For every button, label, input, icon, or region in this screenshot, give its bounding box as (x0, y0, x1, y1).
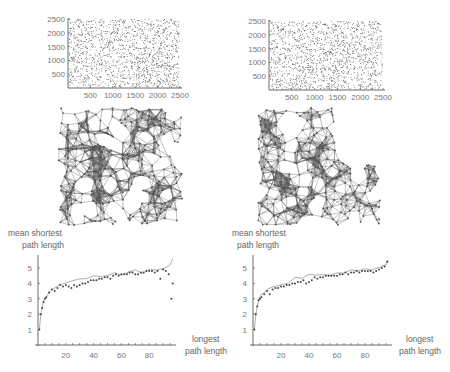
figure-canvas: 50010001500200025005001000150020002500 5… (0, 0, 450, 372)
x-tick-label: 2000 (351, 93, 369, 102)
x-axis-label: path length (399, 346, 441, 356)
y-axis-label: path length (237, 240, 279, 250)
x-tick-label: 2500 (171, 91, 189, 100)
y-tick-label: 1 (243, 326, 248, 335)
x-axis-label: longest (192, 334, 220, 344)
y-tick-label: 2 (243, 310, 248, 319)
y-tick-label: 1500 (248, 45, 266, 54)
x-tick-label: 1500 (329, 93, 347, 102)
x-tick-label: 60 (333, 351, 342, 360)
y-axis-label: mean shortest (8, 228, 62, 238)
y-tick-label: 1000 (248, 58, 266, 67)
y-tick-label: 4 (28, 279, 33, 288)
network-graph-left (58, 107, 183, 226)
y-tick-label: 4 (243, 279, 248, 288)
x-tick-label: 40 (89, 351, 98, 360)
y-tick-label: 500 (253, 72, 267, 81)
path-length-plot-left: mean shortest path length longest path l… (8, 228, 227, 360)
x-tick-label: 1000 (306, 93, 324, 102)
x-tick-label: 2000 (149, 91, 167, 100)
path-length-plot-right: mean shortest path length longest path l… (232, 228, 441, 360)
x-tick-label: 500 (285, 93, 299, 102)
y-tick-label: 2500 (248, 17, 266, 26)
y-axis-label: mean shortest (232, 228, 286, 238)
node-positions-scatter-left: 50010001500200025005001000150020002500 (47, 15, 189, 100)
network-graph-right (257, 107, 380, 226)
y-tick-label: 2500 (47, 15, 65, 24)
x-tick-label: 2500 (374, 93, 392, 102)
y-tick-label: 2000 (248, 31, 266, 40)
node-positions-scatter-right: 50010001500200025005001000150020002500 (248, 17, 392, 102)
x-tick-label: 60 (117, 351, 126, 360)
x-axis-label: longest (406, 334, 434, 344)
y-tick-label: 3 (243, 295, 248, 304)
x-tick-label: 20 (61, 351, 70, 360)
y-tick-label: 1 (28, 326, 33, 335)
x-tick-label: 1500 (126, 91, 144, 100)
x-tick-label: 500 (84, 91, 98, 100)
x-tick-label: 1000 (104, 91, 122, 100)
x-axis-label: path length (185, 346, 227, 356)
x-tick-label: 80 (145, 351, 154, 360)
y-tick-label: 2000 (47, 29, 65, 38)
y-tick-label: 5 (243, 264, 248, 273)
x-tick-label: 80 (361, 351, 370, 360)
y-tick-label: 1500 (47, 43, 65, 52)
y-axis-label: path length (22, 240, 64, 250)
y-tick-label: 3 (28, 295, 33, 304)
y-tick-label: 2 (28, 310, 33, 319)
y-tick-label: 5 (28, 264, 33, 273)
x-tick-label: 20 (277, 351, 286, 360)
y-tick-label: 1000 (47, 56, 65, 65)
y-tick-label: 500 (52, 70, 66, 79)
x-tick-label: 40 (305, 351, 314, 360)
